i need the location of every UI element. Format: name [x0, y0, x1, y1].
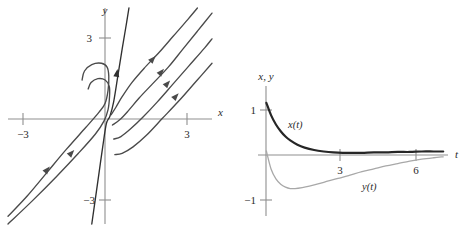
x-of-t-label: x(t)	[287, 119, 303, 131]
phase-portrait-svg: x y −3 3 3 −3	[0, 0, 240, 231]
time-t-tick-label-6: 6	[413, 164, 419, 176]
phase-curves	[8, 8, 212, 224]
time-series-panel: t x, y 3 6 1 −1 x(t) y(t)	[240, 0, 475, 231]
phase-trajectory	[112, 13, 212, 125]
phase-portrait-panel: x y −3 3 3 −3	[0, 0, 240, 231]
phase-labels-group: x y −3 3 3 −3	[17, 4, 223, 206]
time-t-axis-label: t	[455, 148, 459, 160]
phase-direction-arrow	[43, 165, 53, 175]
phase-x-tick-label-neg3: −3	[17, 128, 29, 140]
phase-trajectory	[114, 39, 212, 139]
time-y-tick-label-1: 1	[251, 104, 257, 116]
phase-trajectory	[111, 8, 197, 115]
time-labels-group: t x, y 3 6 1 −1 x(t) y(t)	[244, 70, 459, 206]
phase-trajectories-group	[8, 8, 212, 224]
phase-y-axis-label: y	[102, 4, 108, 16]
phase-x-tick-label-pos3: 3	[184, 128, 190, 140]
time-value-axis-label: x, y	[257, 70, 273, 82]
time-y-tick-label-neg1: −1	[244, 194, 256, 206]
time-series-svg: t x, y 3 6 1 −1 x(t) y(t)	[240, 0, 475, 231]
time-t-tick-label-3: 3	[337, 164, 343, 176]
phase-y-tick-label-pos3: 3	[87, 32, 93, 44]
phase-x-axis-label: x	[217, 106, 223, 118]
y-of-t-label: y(t)	[361, 181, 377, 193]
figure-root: x y −3 3 3 −3	[0, 0, 475, 231]
phase-y-tick-label-neg3: −3	[83, 194, 95, 206]
